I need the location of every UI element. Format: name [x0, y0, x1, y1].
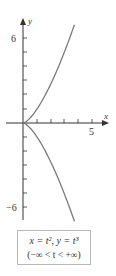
x-tick-label-5: 5: [89, 126, 94, 137]
equation-text: x = t², y = t³: [18, 235, 90, 247]
equation-caption-box: x = t², y = t³ (−∞ < t < +∞): [17, 230, 91, 265]
y-axis-arrow-icon: [20, 18, 26, 25]
y-axis-label: y: [27, 16, 32, 26]
x-axis-label: x: [103, 111, 108, 121]
y-tick-label-6: 6: [11, 33, 16, 44]
parameter-range-text: (−∞ < t < +∞): [18, 249, 90, 261]
x-ticks: [37, 119, 92, 123]
y-tick-label-neg6: −6: [6, 202, 17, 213]
